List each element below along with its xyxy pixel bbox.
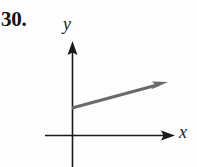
exercise-figure: 30. y x <box>0 0 197 167</box>
axis-label-x: x <box>179 122 187 142</box>
coordinate-plot <box>0 0 197 167</box>
ray-line <box>72 85 159 109</box>
axis-label-y: y <box>63 14 71 34</box>
